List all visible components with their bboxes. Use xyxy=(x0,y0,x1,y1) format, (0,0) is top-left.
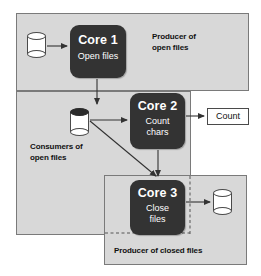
node-count-box: Count xyxy=(207,108,249,125)
core-1-title: Core 1 xyxy=(70,33,126,47)
cylinder-top xyxy=(213,189,232,197)
region-label-consumers-of-open-files: Consumers of open files xyxy=(30,142,83,163)
cylinder-icon-open-files-queue xyxy=(70,108,89,136)
region-label-producer-of-closed-files: Producer of closed files xyxy=(114,246,202,257)
core-2-subtitle: Count chars xyxy=(130,116,185,138)
core-2-title: Core 2 xyxy=(130,99,185,113)
cylinder-icon-input-files xyxy=(27,32,46,58)
core-1-subtitle: Open files xyxy=(70,51,126,62)
region-label-producer-of-open-files: Producer of open files xyxy=(152,32,196,53)
cylinder-top xyxy=(70,108,89,116)
cylinder-bottom xyxy=(27,50,46,58)
core-3-subtitle: Close files xyxy=(130,203,185,225)
node-core-1: Core 1 Open files xyxy=(70,25,126,78)
diagram-canvas: Producer of open files Consumers of open… xyxy=(0,0,261,276)
core-3-title: Core 3 xyxy=(130,186,185,200)
cylinder-top xyxy=(27,32,46,40)
node-core-3: Core 3 Close files xyxy=(130,180,185,235)
cylinder-bottom xyxy=(70,128,89,136)
cylinder-bottom xyxy=(213,207,232,215)
node-core-2: Core 2 Count chars xyxy=(130,93,185,149)
cylinder-icon-closed-files xyxy=(213,189,232,215)
